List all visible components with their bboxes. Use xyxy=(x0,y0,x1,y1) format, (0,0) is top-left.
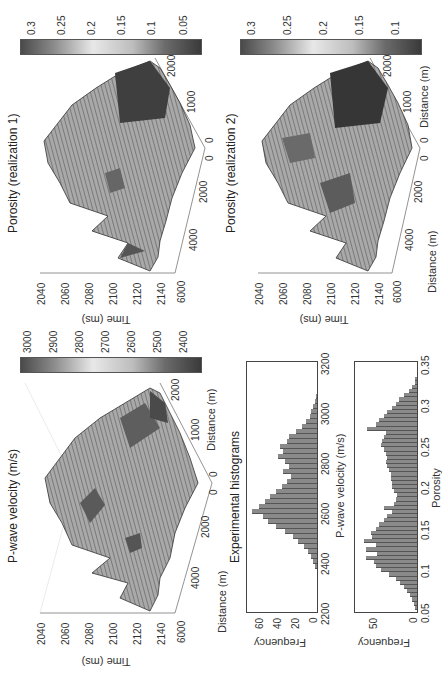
histogram-bar xyxy=(396,402,417,406)
histogram-bar xyxy=(384,435,417,439)
porosity1-3d-panel: Porosity (realization 1) 2040 2060 2080 … xyxy=(0,53,215,313)
velocity-colorbar-gradient xyxy=(20,357,202,373)
histogram-bar xyxy=(386,460,417,464)
histogram-bar xyxy=(389,572,417,576)
histogram-bar xyxy=(396,497,417,501)
histogram-bar xyxy=(372,535,417,539)
histogram-bar xyxy=(379,418,417,422)
porosity-histogram-bars xyxy=(355,362,417,612)
histogram-bar xyxy=(404,585,417,589)
histogram-bar xyxy=(392,481,417,485)
velocity-3d-xlabel-right: Distance (m) xyxy=(205,389,217,451)
histogram-bar xyxy=(392,485,417,489)
velocity-histogram-ylabel: Frequency xyxy=(254,637,306,649)
histogram-bar xyxy=(415,606,417,610)
histogram-bar xyxy=(374,560,417,564)
histogram-bar xyxy=(379,522,417,526)
porosity1-surface xyxy=(0,53,215,313)
histogram-bar xyxy=(412,597,417,601)
histogram-bar xyxy=(397,493,417,497)
histogram-bar xyxy=(276,525,317,530)
histogram-bar xyxy=(386,452,417,456)
histogram-bar xyxy=(308,550,317,555)
histogram-bar xyxy=(384,447,417,451)
velocity-histogram-bars xyxy=(247,362,317,612)
histogram-bar xyxy=(376,543,417,547)
histogram-bar xyxy=(407,589,417,593)
histograms-title: Experimental histograms xyxy=(228,431,242,563)
histogram-bar xyxy=(415,381,417,385)
histogram-bar xyxy=(270,495,317,500)
histogram-bar xyxy=(291,475,317,480)
histogram-bar xyxy=(371,531,417,535)
histogram-bar xyxy=(283,450,317,455)
histogram-bar xyxy=(285,530,317,535)
velocity-3d-xlabel-left: Distance (m) xyxy=(216,571,228,633)
histogram-bar xyxy=(391,477,417,481)
histogram-bar xyxy=(381,443,417,447)
histogram-bar xyxy=(394,489,417,493)
histogram-bar xyxy=(387,410,417,414)
histogram-bar xyxy=(287,480,317,485)
histogram-bar xyxy=(376,527,417,531)
histogram-bar xyxy=(287,440,317,445)
histogram-bar xyxy=(311,410,317,415)
histogram-bar xyxy=(387,456,417,460)
histogram-bar xyxy=(293,535,317,540)
histogram-bar xyxy=(364,539,417,543)
histogram-bar xyxy=(382,439,417,443)
histogram-bar xyxy=(296,430,317,435)
porosity2-3d-panel: Porosity (realization 2) 2040 2060 2080 … xyxy=(220,53,441,313)
histogram-bar xyxy=(278,455,317,460)
velocity-histogram xyxy=(246,361,318,613)
histogram-bar xyxy=(289,465,317,470)
histogram-bar xyxy=(283,470,317,475)
histogram-bar xyxy=(384,518,417,522)
porosity1-zlabel: Time (ms) xyxy=(81,314,130,326)
histogram-bar xyxy=(366,556,417,560)
porosity1-colorbar: 0.3 0.25 0.2 0.15 0.1 0.05 xyxy=(20,0,210,55)
porosity1-colorbar-gradient xyxy=(20,39,202,55)
porosity-histogram-ylabel: Frequency xyxy=(358,637,410,649)
histogram-bar xyxy=(280,445,317,450)
histogram-bar xyxy=(298,540,317,545)
porosity2-xlabel-right: Distance (m) xyxy=(418,66,430,128)
histogram-bar xyxy=(315,565,317,570)
histogram-bar xyxy=(310,415,317,420)
histogram-bar xyxy=(415,377,417,381)
histogram-bar xyxy=(381,568,417,572)
porosity2-colorbar-gradient xyxy=(240,39,422,55)
histogram-bar xyxy=(384,414,417,418)
histogram-bar xyxy=(306,420,317,425)
histogram-bar xyxy=(392,510,417,514)
histogram-bar xyxy=(313,560,317,565)
velocity-3d-panel: P-wave velocity (m/s) 2040 2060 xyxy=(0,373,215,673)
histogram-bar xyxy=(289,435,317,440)
histogram-bar xyxy=(313,405,317,410)
histogram-bar xyxy=(391,472,417,476)
histogram-bar xyxy=(399,397,417,401)
porosity-histogram xyxy=(354,361,418,613)
histogram-bar xyxy=(387,514,417,518)
porosity-histogram-xlabel: Porosity xyxy=(430,468,442,508)
histogram-bar xyxy=(376,564,417,568)
histogram-bar xyxy=(412,385,417,389)
histogram-bar xyxy=(386,431,417,435)
histogram-bar xyxy=(410,593,417,597)
porosity2-zlabel: Time (ms) xyxy=(299,314,348,326)
histogram-bar xyxy=(414,602,417,606)
histogram-bar xyxy=(367,427,417,431)
histogram-bar xyxy=(389,468,417,472)
histograms-panel: Experimental histograms Frequency 60 40 … xyxy=(228,343,441,673)
histogram-bar xyxy=(394,502,417,506)
histogram-bar xyxy=(268,520,317,525)
histogram-bar xyxy=(302,425,317,430)
porosity2-xlabel-left: Distance (m) xyxy=(426,231,438,293)
histogram-bar xyxy=(285,460,317,465)
porosity2-colorbar: 0.3 0.25 0.2 0.15 0.1 xyxy=(240,0,430,55)
histogram-bar xyxy=(265,500,317,505)
velocity-3d-zlabel: Time (ms) xyxy=(81,656,130,668)
histogram-bar xyxy=(400,581,417,585)
histogram-bar xyxy=(316,395,317,400)
